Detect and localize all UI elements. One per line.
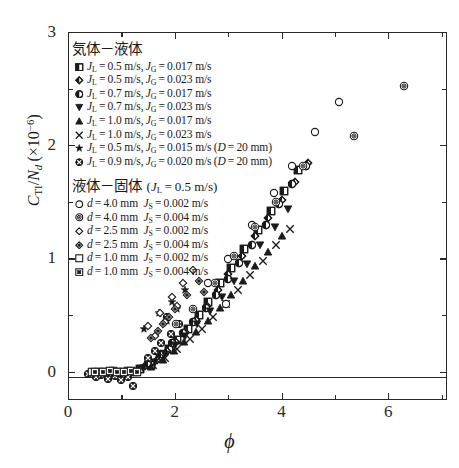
legend-item-half-square: JL = 0.5 m/s, JG = 0.017 m/s <box>72 60 322 74</box>
legend-item-cross-x: JL = 1.0 m/s, JG = 0.023 m/s <box>72 128 322 142</box>
y-tick-minor-right <box>442 202 447 203</box>
y-tick-major-right <box>440 258 447 259</box>
legend-heading-gas-liquid: 気体－液体 <box>72 37 322 58</box>
legend-item-square-in: d = 1.0 mm JS = 0.004 m/s <box>72 265 322 279</box>
legend-item-circ-cross: JL = 0.9 m/s, JG = 0.020 m/s (D = 20 mm) <box>72 155 322 169</box>
y-tick-major-right <box>440 145 447 146</box>
star-icon <box>72 144 87 153</box>
legend-item-label: d = 4.0 mm JS = 0.002 m/s <box>87 197 208 211</box>
x-tick-major <box>175 393 176 400</box>
legend-item-half-circle: JL = 0.7 m/s, JG = 0.017 m/s <box>72 87 322 101</box>
legend-items-liquid-solid: d = 4.0 mm JS = 0.002 m/sd = 4.0 mm JS =… <box>72 197 322 279</box>
y-tick-major-right <box>440 372 447 373</box>
legend-item-half-diamond: JL = 0.5 m/s, JG = 0.023 m/s <box>72 74 322 88</box>
zero-reference-line <box>68 377 447 378</box>
y-tick-minor-right <box>442 315 447 316</box>
x-tick-label: 6 <box>368 403 408 420</box>
y-tick-major <box>68 372 75 373</box>
legend-item-label: JL = 1.0 m/s, JG = 0.017 m/s <box>87 114 211 128</box>
y-tick-label: 1 <box>0 249 56 266</box>
legend-item-label: JL = 0.9 m/s, JG = 0.020 m/s (D = 20 mm) <box>87 155 272 169</box>
x-tick-major-top <box>388 32 389 39</box>
y-tick-minor <box>68 315 73 316</box>
legend-item-star: JL = 0.5 m/s, JG = 0.015 m/s (D = 20 mm) <box>72 142 322 156</box>
x-axis-label: ϕ <box>0 430 459 453</box>
legend-item-bullseye: d = 4.0 mm JS = 0.004 m/s <box>72 211 322 225</box>
half-circle-icon <box>72 90 87 99</box>
legend-item-tri-down: JL = 0.7 m/s, JG = 0.023 m/s <box>72 101 322 115</box>
legend-item-tri-up: JL = 1.0 m/s, JG = 0.017 m/s <box>72 114 322 128</box>
legend-heading-liquid-solid: 液体－固体 (JL = 0.5 m/s) <box>72 174 322 195</box>
x-tick-major <box>388 393 389 400</box>
x-tick-major <box>282 393 283 400</box>
x-tick-minor <box>335 395 336 400</box>
square-in-icon <box>72 268 87 277</box>
y-tick-label: 3 <box>0 23 56 40</box>
tri-down-icon <box>72 103 87 112</box>
open-circle-icon <box>72 200 87 209</box>
x-tick-minor-top <box>335 32 336 37</box>
legend-item-label: d = 1.0 mm JS = 0.004 m/s <box>87 265 208 279</box>
open-square-icon <box>72 254 87 263</box>
tri-up-icon <box>72 117 87 126</box>
x-tick-minor-top <box>442 32 443 37</box>
x-tick-minor <box>442 395 443 400</box>
legend: 気体－液体 JL = 0.5 m/s, JG = 0.017 m/sJL = 0… <box>72 36 322 279</box>
legend-item-label: JL = 1.0 m/s, JG = 0.023 m/s <box>87 128 211 142</box>
bullseye-icon <box>72 213 87 222</box>
legend-items-gas-liquid: JL = 0.5 m/s, JG = 0.017 m/sJL = 0.5 m/s… <box>72 60 322 169</box>
y-axis-label: CTI/Nd (×10−6) <box>24 70 44 250</box>
x-tick-minor <box>228 395 229 400</box>
legend-item-label: JL = 0.5 m/s, JG = 0.017 m/s <box>87 60 211 74</box>
x-tick-minor <box>121 395 122 400</box>
open-diamond-icon <box>72 227 87 236</box>
legend-item-label: d = 2.5 mm JS = 0.002 m/s <box>87 224 208 238</box>
x-tick-major <box>68 393 69 400</box>
legend-item-label: JL = 0.7 m/s, JG = 0.023 m/s <box>87 100 211 114</box>
legend-item-label: JL = 0.7 m/s, JG = 0.017 m/s <box>87 87 211 101</box>
legend-item-open-circle: d = 4.0 mm JS = 0.002 m/s <box>72 197 322 211</box>
scatter-plot-figure: 01230246 CTI/Nd (×10−6) ϕ 気体－液体 JL = 0.5… <box>0 0 459 468</box>
legend-item-open-diamond: d = 2.5 mm JS = 0.002 m/s <box>72 224 322 238</box>
half-diamond-icon <box>72 76 87 85</box>
legend-item-label: d = 2.5 mm JS = 0.004 m/s <box>87 238 208 252</box>
x-tick-label: 2 <box>155 403 195 420</box>
x-tick-major-top <box>68 32 69 39</box>
legend-item-label: d = 1.0 mm JS = 0.002 m/s <box>87 251 208 265</box>
y-tick-label: 0 <box>0 363 56 380</box>
legend-item-label: JL = 0.5 m/s, JG = 0.015 m/s (D = 20 mm) <box>87 141 272 155</box>
half-square-icon <box>72 63 87 72</box>
x-tick-label: 4 <box>262 403 302 420</box>
legend-item-diamond-in: d = 2.5 mm JS = 0.004 m/s <box>72 238 322 252</box>
y-tick-minor-right <box>442 89 447 90</box>
diamond-in-icon <box>72 241 87 250</box>
legend-item-label: d = 4.0 mm JS = 0.004 m/s <box>87 211 208 225</box>
circ-cross-icon <box>72 158 87 167</box>
cross-x-icon <box>72 131 87 140</box>
legend-item-label: JL = 0.5 m/s, JG = 0.023 m/s <box>87 73 211 87</box>
legend-item-open-square: d = 1.0 mm JS = 0.002 m/s <box>72 252 322 266</box>
x-tick-label: 0 <box>48 403 88 420</box>
